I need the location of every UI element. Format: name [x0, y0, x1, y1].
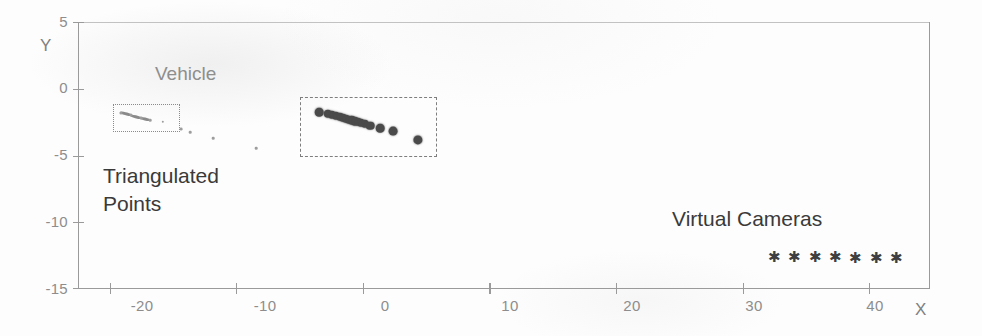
camera-marker-icon: ✱ [870, 250, 883, 265]
y-tick-5 [73, 22, 84, 23]
y-tick-minus5 [73, 156, 84, 157]
vehicle-point [376, 124, 385, 133]
axis-bottom-spine [78, 288, 930, 289]
y-tick-0 [73, 89, 84, 90]
annotation-virtual-cameras: Virtual Cameras [672, 206, 822, 232]
y-tick-label-minus10: -10 [16, 213, 68, 230]
x-tick-label-40: 40 [857, 297, 893, 314]
y-tick-minus15 [73, 288, 84, 289]
triangulated-point [149, 119, 152, 122]
x-tick-label-minus10: -10 [245, 297, 285, 314]
x-tick-label-20: 20 [614, 297, 650, 314]
x-tick-label-30: 30 [736, 297, 772, 314]
x-tick-40 [869, 283, 870, 294]
annotation-triangulated-line1: Triangulated [103, 163, 219, 189]
x-tick-label-minus20: -20 [122, 297, 162, 314]
triangulated-point [130, 114, 133, 117]
x-tick-0 [363, 283, 364, 294]
camera-marker-icon: ✱ [829, 249, 842, 264]
camera-marker-icon: ✱ [768, 249, 781, 264]
figure-canvas: 5 0 -5 -10 -15 -20 -10 0 10 20 30 40 Y X [0, 0, 982, 336]
camera-marker-icon: ✱ [890, 250, 903, 265]
y-tick-minus10 [73, 222, 84, 223]
triangulated-point [180, 128, 183, 131]
y-tick-label-5: 5 [28, 13, 68, 30]
vehicle-point [366, 121, 375, 130]
vehicle-point [315, 108, 324, 117]
axis-top-spine [78, 22, 930, 23]
y-axis-title: Y [40, 36, 51, 56]
x-tick-label-10: 10 [492, 297, 528, 314]
camera-marker-icon: ✱ [849, 249, 862, 264]
triangulated-point [212, 137, 215, 140]
x-tick-minus20 [110, 283, 111, 294]
x-axis-title: X [915, 300, 926, 320]
camera-marker-icon: ✱ [788, 249, 801, 264]
camera-marker-icon: ✱ [809, 249, 822, 264]
y-tick-label-minus15: -15 [16, 280, 68, 297]
y-tick-label-minus5: -5 [22, 146, 68, 163]
axis-right-spine [929, 22, 930, 289]
x-tick-30 [743, 283, 744, 294]
x-tick-20 [616, 283, 617, 294]
triangulated-point [255, 147, 258, 150]
x-tick-minus10 [236, 283, 237, 294]
y-tick-label-0: 0 [28, 79, 68, 96]
annotation-triangulated-line2: Points [103, 191, 161, 217]
annotation-vehicle: Vehicle [155, 61, 216, 87]
triangulated-point [140, 117, 143, 120]
x-tick-10 [489, 283, 490, 294]
vehicle-point [389, 127, 398, 136]
x-tick-label-0: 0 [369, 297, 401, 314]
triangulated-point [189, 131, 192, 134]
